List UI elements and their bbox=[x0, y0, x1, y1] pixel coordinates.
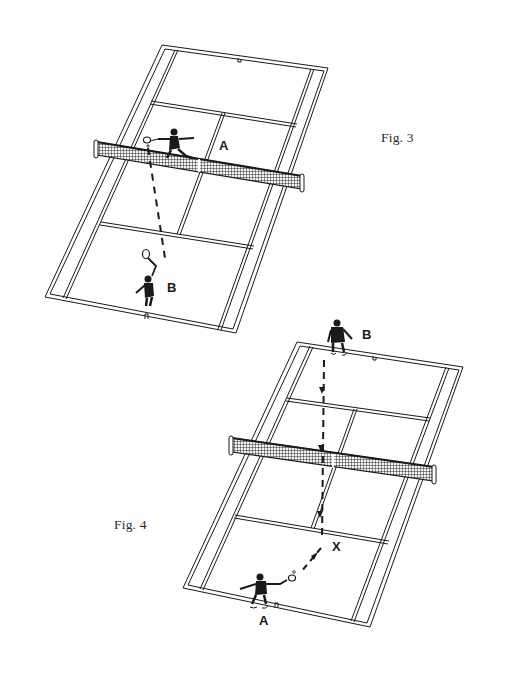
player-label-a-fig3: A bbox=[219, 138, 229, 153]
player-b-fig3 bbox=[136, 250, 156, 307]
player-label-a-fig4: A bbox=[259, 613, 269, 628]
player-label-b-fig4: B bbox=[362, 327, 371, 342]
figure-caption-fig4: Fig. 4 bbox=[114, 517, 147, 533]
page: A B bbox=[0, 0, 506, 679]
landing-marker-x: X bbox=[332, 539, 341, 554]
ball-path-fig4 bbox=[301, 360, 325, 572]
figure-caption-fig3: Fig. 3 bbox=[381, 130, 414, 146]
court-fig3 bbox=[45, 45, 328, 333]
diagram-canvas: A B bbox=[0, 0, 506, 679]
player-label-b-fig3: B bbox=[167, 280, 176, 295]
player-a-fig4 bbox=[240, 571, 296, 609]
